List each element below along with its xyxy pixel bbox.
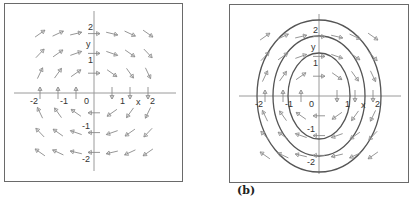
x-tick-label: 1 xyxy=(120,96,125,106)
x-tick-label: -1 xyxy=(285,99,293,109)
y-tick-label: -1 xyxy=(307,124,315,134)
y-tick-label: -2 xyxy=(307,157,315,167)
direction-field-plot-a: -2-101221-1-2xy xyxy=(5,4,184,183)
x-tick-label: 2 xyxy=(150,96,155,106)
y-tick-label: 1 xyxy=(88,55,93,65)
y-axis-label: y xyxy=(311,42,316,52)
panel-b-caption: (b) xyxy=(237,184,255,197)
x-tick-label: 0 xyxy=(309,99,314,109)
y-tick-label: -1 xyxy=(82,121,90,131)
x-tick-label: -2 xyxy=(30,96,38,106)
x-axis-label: x xyxy=(361,100,366,110)
direction-field-plot-b: -2-101221-1-2xy xyxy=(230,5,410,184)
y-tick-label: 2 xyxy=(313,25,318,35)
direction-field-panel-b: -2-101221-1-2xy xyxy=(229,4,409,183)
y-tick-label: -2 xyxy=(82,154,90,164)
x-tick-label: -2 xyxy=(255,99,263,109)
y-tick-label: 1 xyxy=(313,58,318,68)
direction-field-panel-a: -2-101221-1-2xy xyxy=(4,3,183,182)
x-axis-label: x xyxy=(136,97,141,107)
x-tick-label: -1 xyxy=(60,96,68,106)
x-tick-label: 0 xyxy=(84,96,89,106)
x-tick-label: 1 xyxy=(345,99,350,109)
y-axis-label: y xyxy=(86,39,91,49)
x-tick-label: 2 xyxy=(375,99,380,109)
y-tick-label: 2 xyxy=(88,22,93,32)
